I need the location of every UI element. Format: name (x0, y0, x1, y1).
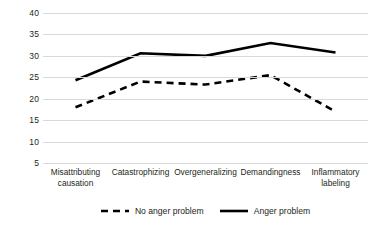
line-chart: 403530252015105 Misattributing causation… (0, 0, 378, 234)
dashed-line-icon (101, 206, 129, 216)
legend-item: No anger problem (101, 206, 204, 216)
gridline (43, 56, 368, 57)
gridline (43, 77, 368, 78)
y-axis-tick-label: 20 (5, 95, 39, 104)
series-line-no-anger-problem (76, 75, 336, 111)
y-axis-tick-label: 15 (5, 116, 39, 125)
legend-label: No anger problem (135, 206, 204, 216)
y-axis-tick-label: 5 (5, 159, 39, 168)
series-layer (43, 13, 368, 163)
x-axis-tick-label: Misattributing causation (43, 167, 108, 197)
x-axis: Misattributing causationCatastrophizingO… (43, 167, 368, 197)
legend-item: Anger problem (220, 206, 310, 216)
y-axis-tick-label: 30 (5, 52, 39, 61)
series-line-anger-problem (76, 43, 336, 80)
y-axis-tick-label: 10 (5, 138, 39, 147)
gridline (43, 163, 368, 164)
gridline (43, 99, 368, 100)
y-axis: 403530252015105 (0, 13, 39, 163)
x-axis-tick-label: Overgeneralizing (173, 167, 238, 197)
chart-legend: No anger problemAnger problem (43, 203, 368, 219)
legend-label: Anger problem (254, 206, 310, 216)
gridline (43, 13, 368, 14)
x-axis-tick-label: Demandingness (238, 167, 303, 197)
solid-line-icon (220, 206, 248, 216)
y-axis-tick-label: 25 (5, 73, 39, 82)
plot-area (43, 13, 368, 163)
y-axis-tick-label: 40 (5, 9, 39, 18)
gridline (43, 142, 368, 143)
gridline (43, 34, 368, 35)
gridline (43, 120, 368, 121)
y-axis-tick-label: 35 (5, 30, 39, 39)
x-axis-tick-label: Catastrophizing (108, 167, 173, 197)
x-axis-tick-label: Inflammatory labeling (303, 167, 368, 197)
